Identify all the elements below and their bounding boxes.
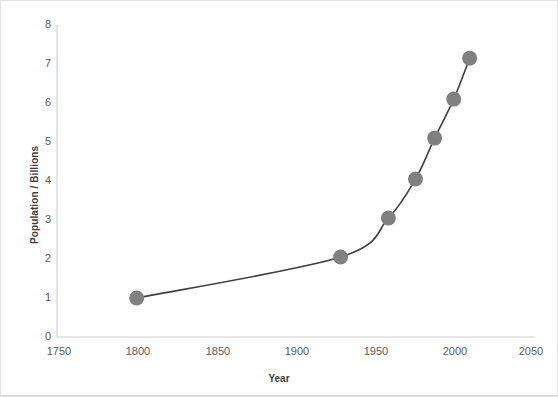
data-point-marker[interactable]: 1800: 1 [129, 291, 144, 306]
population-line-chart: 1800: 11928: 2.051958: 3.051975: 4.05198… [0, 0, 558, 397]
x-tick-label-1800: 1800 [113, 346, 163, 357]
plot-area: 1800: 11928: 2.051958: 3.051975: 4.05198… [1, 1, 558, 397]
series-group: 1800: 11928: 2.051958: 3.051975: 4.05198… [129, 51, 477, 306]
y-tick-label-6: 6 [31, 97, 51, 108]
x-tick-label-1850: 1850 [193, 346, 243, 357]
data-point-marker[interactable]: 1999: 6.1 [446, 92, 461, 107]
x-tick-label-2050: 2050 [506, 346, 556, 357]
x-tick-label-1750: 1750 [34, 346, 84, 357]
y-tick-label-8: 8 [31, 19, 51, 30]
y-axis-title: Population / Billions [29, 146, 40, 244]
y-tick-label-0: 0 [31, 331, 51, 342]
data-point-marker[interactable]: 1958: 3.05 [381, 211, 396, 226]
x-tick-label-2000: 2000 [430, 346, 480, 357]
data-point-marker[interactable]: 1928: 2.05 [333, 250, 348, 265]
y-tick-label-7: 7 [31, 58, 51, 69]
data-point-marker[interactable]: 2009: 7.15 [462, 51, 477, 66]
x-axis-title: Year [1, 373, 557, 384]
y-tick-label-2: 2 [31, 253, 51, 264]
x-tick-label-1900: 1900 [272, 346, 322, 357]
y-tick-label-1: 1 [31, 292, 51, 303]
data-point-marker[interactable]: 1987: 5.1 [427, 131, 442, 146]
x-tick-label-1950: 1950 [351, 346, 401, 357]
data-point-marker[interactable]: 1975: 4.05 [408, 172, 423, 187]
axis-lines [57, 25, 535, 337]
